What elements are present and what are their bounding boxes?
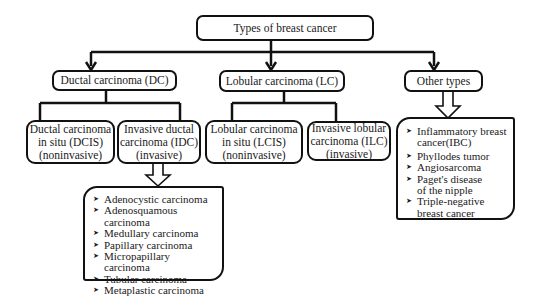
node-dcis: Ductal carcinoma in situ (DCIS) (noninva…: [26, 120, 115, 164]
node-line: Lobular carcinoma: [210, 123, 297, 136]
node-line: (noninvasive): [39, 149, 102, 162]
node-line: in situ (DCIS): [38, 136, 103, 149]
list-item: Micropapillary carcinoma: [93, 251, 218, 274]
node-line: Invasive lobular: [312, 122, 386, 135]
node-line: (noninvasive): [222, 149, 285, 162]
category-label: Ductal carcinoma (DC): [61, 74, 169, 87]
root-label: Types of breast cancer: [234, 22, 337, 35]
node-line: carcinoma (ILC): [311, 135, 388, 148]
node-line: carcinoma (IDC): [120, 136, 198, 149]
node-line: Ductal carcinoma: [30, 123, 111, 136]
category-ductal-carcinoma: Ductal carcinoma (DC): [52, 70, 177, 91]
node-line: in situ (LCIS): [222, 136, 286, 149]
category-lobular-carcinoma: Lobular carcinoma (LC): [219, 70, 345, 92]
list-item: Inflammatory breast cancer(IBC): [406, 126, 509, 149]
list-item: Triple-negative breast cancer: [406, 196, 509, 219]
node-line: (invasive): [136, 149, 182, 162]
category-label: Other types: [417, 75, 470, 88]
node-ilc: Invasive lobular carcinoma (ILC) (invasi…: [307, 121, 391, 161]
node-lcis: Lobular carcinoma in situ (LCIS) (noninv…: [205, 120, 303, 164]
category-other-types: Other types: [404, 70, 483, 92]
list-item: Metaplastic carcinoma: [93, 285, 218, 296]
list-item: Paget's disease of the nipple: [406, 174, 509, 197]
node-idc: Invasive ductal carcinoma (IDC) (invasiv…: [117, 120, 201, 164]
idc-subtypes-list: Adenocystic carcinoma Adenosquamous carc…: [83, 186, 224, 281]
other-types-list: Inflammatory breast cancer(IBC) Phyllode…: [396, 117, 515, 220]
list-item: Medullary carcinoma: [93, 228, 218, 239]
list-item: Adenosquamous carcinoma: [93, 205, 218, 228]
category-label: Lobular carcinoma (LC): [226, 75, 338, 88]
list-item: Angiosarcoma: [406, 162, 509, 173]
node-line: (invasive): [326, 148, 372, 161]
root-node: Types of breast cancer: [196, 15, 374, 41]
node-line: Invasive ductal: [124, 123, 194, 136]
